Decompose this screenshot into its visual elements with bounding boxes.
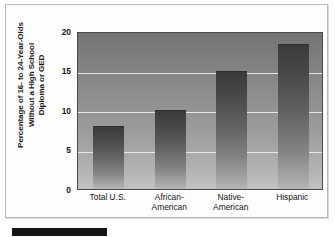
y-axis-tick-labels: 05101520	[50, 28, 71, 194]
bar-2	[216, 71, 247, 190]
x-label-2: Native- American	[200, 192, 262, 213]
y-tick-label-20: 20	[50, 28, 71, 37]
x-label-3: Hispanic	[262, 192, 324, 202]
bar-chart: Percentage of 16- to 24-Year-Olds Withou…	[6, 5, 329, 219]
x-label-0: Total U.S.	[77, 192, 139, 202]
figure-card: Percentage of 16- to 24-Year-Olds Withou…	[5, 4, 328, 218]
plot-area	[77, 32, 323, 190]
y-tick-label-10: 10	[50, 107, 71, 116]
bar-3	[278, 44, 309, 189]
bar-1	[155, 110, 186, 189]
y-tick-label-0: 0	[50, 186, 71, 195]
caption-bar	[12, 228, 107, 236]
x-axis-tick-labels: Total U.S.African- AmericanNative- Ameri…	[77, 192, 323, 218]
y-tick-label-5: 5	[50, 146, 71, 155]
y-axis-title: Percentage of 16- to 24-Year-Olds Withou…	[9, 6, 55, 164]
y-tick-label-15: 15	[50, 67, 71, 76]
x-label-1: African- American	[139, 192, 201, 213]
bar-0	[93, 126, 124, 189]
